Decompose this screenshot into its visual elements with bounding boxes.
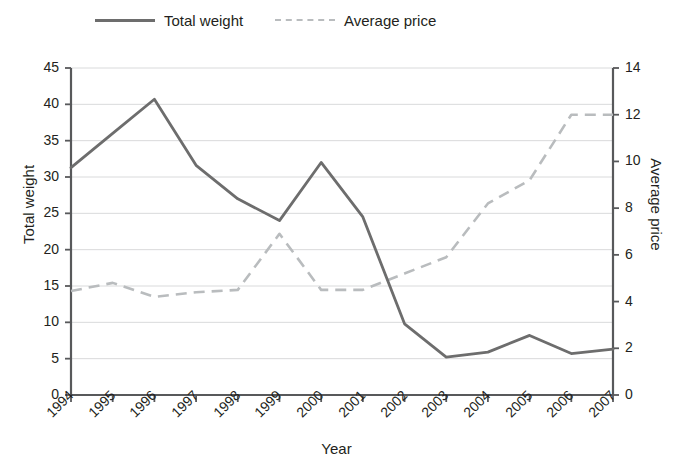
y-right-tick-label: 12 bbox=[625, 106, 665, 122]
chart-figure: Total weight Average price 0510152025303… bbox=[0, 0, 673, 468]
x-axis-title: Year bbox=[0, 440, 673, 457]
gridlines bbox=[71, 68, 613, 395]
series-line-total-weight bbox=[71, 99, 613, 357]
y-right-tick-label: 4 bbox=[625, 293, 665, 309]
y-left-tick-label: 45 bbox=[19, 59, 59, 75]
y-left-tick-label: 10 bbox=[19, 313, 59, 329]
y-left-tick-label: 40 bbox=[19, 95, 59, 111]
plot-area: 051015202530354045 02468101214 199419951… bbox=[0, 0, 673, 468]
y-left-axis-title: Total weight bbox=[20, 145, 37, 265]
y-right-tick-label: 2 bbox=[625, 339, 665, 355]
y-right-tick-label: 14 bbox=[625, 59, 665, 75]
y-right-tick-label: 0 bbox=[625, 386, 665, 402]
y-left-tick-label: 15 bbox=[19, 277, 59, 293]
y-right-axis-title: Average price bbox=[648, 145, 665, 265]
y-left-tick-label: 5 bbox=[19, 350, 59, 366]
series-line-average-price bbox=[71, 115, 613, 297]
